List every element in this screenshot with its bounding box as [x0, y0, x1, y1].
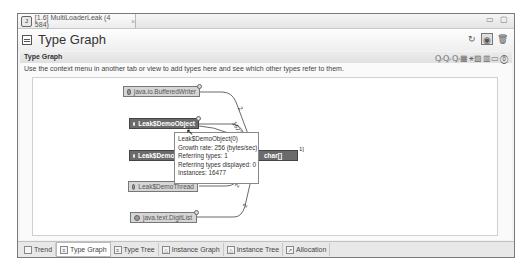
- tab-instance-tree[interactable]: △ Instance Tree: [224, 243, 283, 256]
- editor-window: J [1.6] MultiLoaderLeak (4 584) × ▭ ▢ Ty…: [17, 13, 515, 258]
- graph-node-char-array[interactable]: char[]: [258, 150, 298, 161]
- close-icon[interactable]: ×: [131, 18, 135, 25]
- type-tree-icon: ≡: [114, 246, 122, 254]
- type-graph-icon: ≡: [60, 246, 68, 254]
- tab-label: Trend: [34, 246, 52, 253]
- type-graph-section: Type Graph ꝘꝘꝘ▦⚹▧▥▭⓪ Use the context men…: [20, 52, 512, 240]
- tab-trend[interactable]: Trend: [21, 243, 56, 256]
- page-title: Type Graph: [38, 32, 106, 47]
- graph-toolbar-icons[interactable]: ꝘꝘꝘ▦⚹▧▥▭⓪: [435, 52, 509, 64]
- tooltip-instances: Instances: 16477: [178, 169, 255, 178]
- mouse-cursor-icon: ↖: [186, 127, 194, 137]
- refresh-icon[interactable]: ↻: [466, 33, 478, 45]
- editor-tab[interactable]: J [1.6] MultiLoaderLeak (4 584) ×: [18, 14, 136, 28]
- allocation-icon: ↗: [286, 246, 294, 254]
- char-node-badge: 1]: [299, 146, 304, 152]
- expand-badge-icon[interactable]: [197, 84, 202, 89]
- class-icon: [132, 184, 135, 190]
- instance-graph-icon: △: [162, 246, 170, 254]
- class-icon: [134, 215, 140, 221]
- node-label: java.io.BufferedWriter: [134, 88, 196, 95]
- expand-badge-icon[interactable]: [196, 116, 201, 121]
- node-tooltip: Leak$DemoObject(0) Growth rate: 256 (byt…: [174, 132, 259, 184]
- node-label: java.text.DigitList: [143, 214, 192, 221]
- class-icon: [133, 154, 135, 158]
- trend-icon: [24, 246, 32, 254]
- tab-type-graph[interactable]: ≡ Type Graph: [56, 242, 111, 257]
- section-description: Use the context menu in another tab or v…: [24, 65, 344, 72]
- window-controls[interactable]: ▭ ▢: [486, 15, 510, 24]
- class-icon: [133, 122, 135, 126]
- tab-label: Type Graph: [70, 246, 107, 253]
- instance-tree-icon: △: [227, 246, 235, 254]
- tab-allocation[interactable]: ↗ Allocation: [283, 243, 330, 256]
- node-label: Leak$DemoThread: [138, 183, 194, 190]
- graph-node-buffered-writer[interactable]: java.io.BufferedWriter: [123, 86, 200, 97]
- tooltip-growth-rate: Growth rate: 256 (bytes/sec): [178, 144, 255, 153]
- graph-node-digit-list[interactable]: java.text.DigitList: [130, 212, 197, 223]
- tab-instance-graph[interactable]: △ Instance Graph: [159, 243, 224, 256]
- page-header: Type Graph ↻ ◉ 🗑: [18, 29, 514, 51]
- class-icon: [127, 89, 131, 95]
- editor-tab-bar: J [1.6] MultiLoaderLeak (4 584) × ▭ ▢: [18, 14, 514, 29]
- tooltip-referring-types: Referring types: 1: [178, 152, 255, 161]
- tab-label: Type Tree: [124, 246, 155, 253]
- section-header: Type Graph ꝘꝘꝘ▦⚹▧▥▭⓪: [20, 52, 512, 63]
- tab-label: Instance Graph: [172, 246, 220, 253]
- jrockit-icon: J: [21, 16, 32, 27]
- section-title: Type Graph: [24, 53, 62, 60]
- editor-tab-title: [1.6] MultiLoaderLeak (4 584): [35, 14, 125, 28]
- tab-label: Allocation: [296, 246, 326, 253]
- header-toolbar: ↻ ◉ 🗑: [466, 33, 508, 45]
- bottom-tab-bar: Trend ≡ Type Graph ≡ Type Tree △ Instanc…: [18, 241, 514, 257]
- tab-label: Instance Tree: [237, 246, 279, 253]
- tooltip-referring-displayed: Referring types displayed: 0: [178, 161, 255, 170]
- expand-badge-icon[interactable]: [194, 210, 199, 215]
- trash-icon[interactable]: 🗑: [496, 33, 508, 45]
- node-label: Leak$DemoObject: [138, 120, 195, 127]
- type-graph-icon: [22, 35, 32, 45]
- node-label: char[]: [264, 152, 282, 159]
- view-toggle-icon[interactable]: ◉: [481, 33, 493, 45]
- tab-type-tree[interactable]: ≡ Type Tree: [111, 243, 159, 256]
